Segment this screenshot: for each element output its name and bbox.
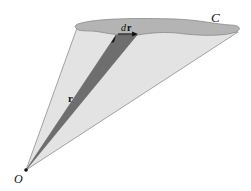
origin-point xyxy=(24,168,28,172)
position-vector-label: r xyxy=(68,92,73,104)
differential-r-label: r xyxy=(127,22,132,33)
curve-label: C xyxy=(211,10,220,25)
swept-fan-region xyxy=(26,28,238,170)
swept-area-diagram: C O r d r xyxy=(0,0,251,191)
origin-label: O xyxy=(14,172,23,186)
diagram-svg: C O r d r xyxy=(0,0,251,191)
